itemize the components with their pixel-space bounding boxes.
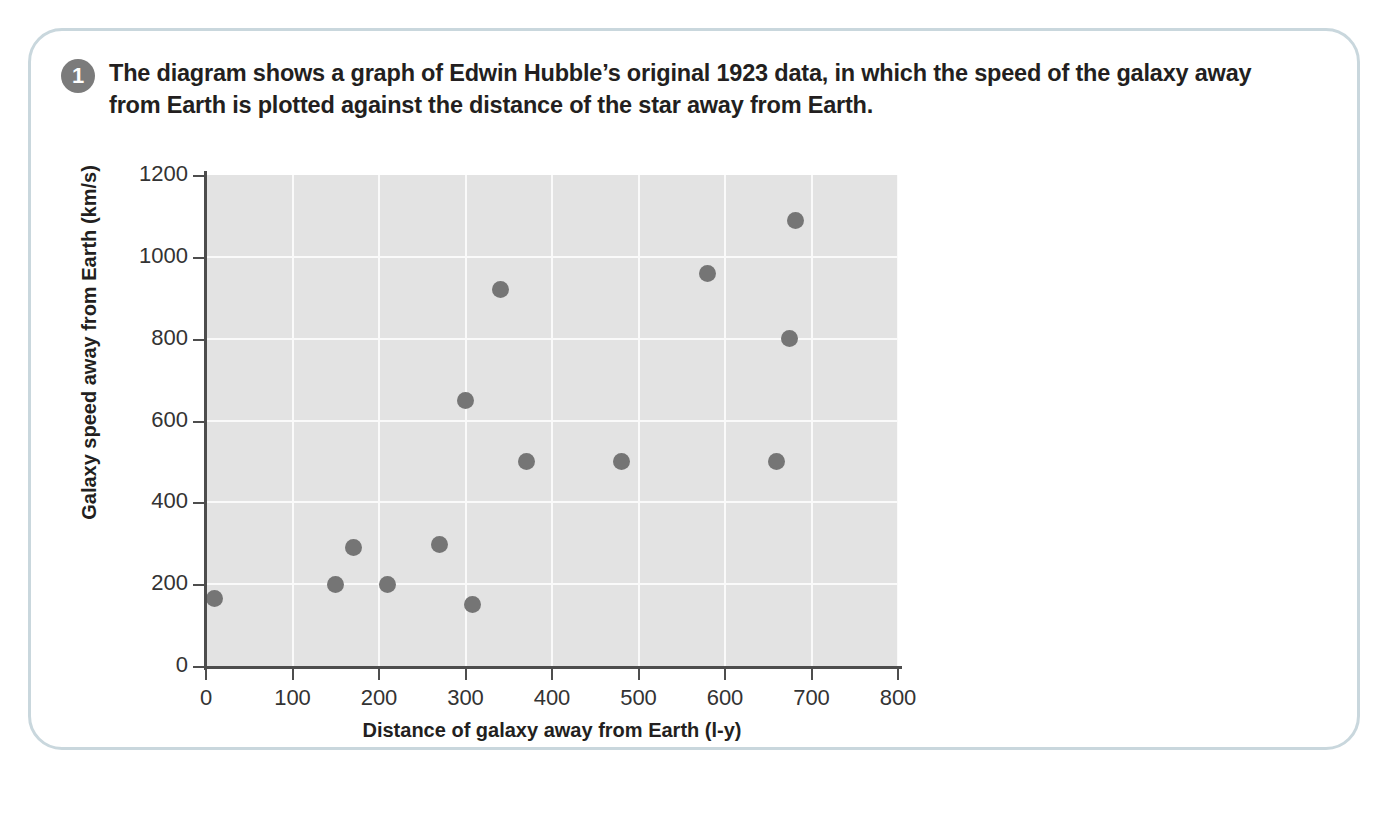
plot-area [206, 175, 898, 666]
x-axis-tick-label: 500 [599, 685, 679, 711]
question-card: 1 The diagram shows a graph of Edwin Hub… [28, 28, 1360, 750]
x-axis-tick-mark [551, 669, 553, 680]
x-axis-tick-mark [638, 669, 640, 680]
x-axis-tick-label: 100 [253, 685, 333, 711]
data-point [206, 590, 223, 607]
y-axis-tick-mark [193, 666, 205, 668]
gridline-horizontal [206, 501, 898, 503]
y-axis-tick-label: 800 [98, 325, 188, 351]
y-axis-tick-label: 1200 [98, 161, 188, 187]
data-point [492, 281, 509, 298]
x-axis-tick-label: 700 [772, 685, 852, 711]
gridline-horizontal [206, 583, 898, 585]
x-axis-tick-label: 400 [512, 685, 592, 711]
y-axis-tick-label: 0 [98, 652, 188, 678]
x-axis-tick-mark [292, 669, 294, 680]
gridline-horizontal [206, 420, 898, 422]
y-axis-tick-mark [193, 175, 205, 177]
x-axis-tick-label: 300 [426, 685, 506, 711]
x-axis-tick-mark [465, 669, 467, 680]
y-axis-tick-mark [193, 421, 205, 423]
y-axis-tick-label: 1000 [98, 243, 188, 269]
data-point [345, 539, 362, 556]
y-axis-tick-label: 600 [98, 407, 188, 433]
data-point [431, 536, 448, 553]
x-axis-tick-label: 600 [685, 685, 765, 711]
scatter-chart-figure: 020040060080010001200 010020030040050060… [31, 31, 1363, 753]
x-axis-tick-mark [378, 669, 380, 680]
x-axis-tick-mark [897, 669, 899, 680]
gridline-horizontal [206, 256, 898, 258]
x-axis-tick-label: 200 [339, 685, 419, 711]
y-axis-tick-mark [193, 502, 205, 504]
data-point [787, 212, 804, 229]
x-axis-line [204, 666, 902, 669]
x-axis-tick-mark [811, 669, 813, 680]
x-axis-tick-mark [724, 669, 726, 680]
x-axis-tick-label: 800 [858, 685, 938, 711]
y-axis-tick-mark [193, 257, 205, 259]
data-point [613, 453, 630, 470]
data-point [518, 453, 535, 470]
data-point [464, 596, 481, 613]
data-point [768, 453, 785, 470]
data-point [781, 330, 798, 347]
data-point [699, 265, 716, 282]
data-point [457, 392, 474, 409]
y-axis-tick-label: 200 [98, 570, 188, 596]
x-axis-title: Distance of galaxy away from Earth (l-y) [206, 719, 898, 742]
data-point [327, 576, 344, 593]
y-axis-tick-mark [193, 339, 205, 341]
x-axis-tick-label: 0 [166, 685, 246, 711]
y-axis-tick-label: 400 [98, 488, 188, 514]
x-axis-tick-mark [205, 669, 207, 680]
y-axis-title: Galaxy speed away from Earth (km/s) [78, 133, 101, 553]
data-point [379, 576, 396, 593]
y-axis-tick-mark [193, 584, 205, 586]
